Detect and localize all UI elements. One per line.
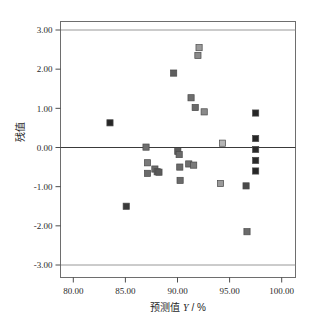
y-tick-label-1: 2.00 <box>37 64 53 74</box>
y-tick-label-0: 3.00 <box>37 25 53 35</box>
data-point <box>144 170 150 176</box>
data-point <box>253 157 259 163</box>
data-point <box>201 109 207 115</box>
data-point <box>196 45 202 51</box>
data-point <box>188 95 194 101</box>
x-axis-title: 预测值Y/ % <box>150 301 206 313</box>
y-tick-label-4: -1.00 <box>34 182 53 192</box>
y-tick-label-5: -2.00 <box>34 221 53 231</box>
data-point <box>217 180 223 186</box>
scatter-chart: 80.0085.0090.0095.00100.00 3.002.001.000… <box>0 0 316 330</box>
data-point <box>244 229 250 235</box>
data-point <box>195 52 201 58</box>
data-point <box>253 135 259 141</box>
x-tick-label-2: 90.00 <box>167 286 188 296</box>
data-point <box>192 104 198 110</box>
data-point <box>107 120 113 126</box>
data-point <box>253 146 259 152</box>
y-tick-label-6: -3.00 <box>34 260 53 270</box>
chart-canvas: 80.0085.0090.0095.00100.00 3.002.001.000… <box>0 0 316 330</box>
chart-background <box>0 0 316 330</box>
data-point <box>156 169 162 175</box>
data-point <box>123 203 129 209</box>
data-point <box>191 162 197 168</box>
data-point <box>176 151 182 157</box>
data-point <box>243 183 249 189</box>
y-tick-label-3: 0.00 <box>37 143 53 153</box>
x-tick-label-4: 100.00 <box>269 286 294 296</box>
data-point <box>144 160 150 166</box>
data-point <box>219 140 225 146</box>
x-tick-label-1: 85.00 <box>115 286 136 296</box>
x-tick-label-3: 95.00 <box>219 286 240 296</box>
y-axis-title: 残值 <box>14 122 26 142</box>
data-point <box>143 144 149 150</box>
y-tick-label-2: 1.00 <box>37 104 53 114</box>
data-point <box>253 168 259 174</box>
data-point <box>177 164 183 170</box>
data-point <box>253 110 259 116</box>
data-point <box>171 70 177 76</box>
x-axis-title-text: 预测值Y/ % <box>150 301 206 313</box>
y-axis-title-text: 残值 <box>14 122 26 142</box>
x-tick-label-0: 80.00 <box>63 286 84 296</box>
data-point <box>177 177 183 183</box>
